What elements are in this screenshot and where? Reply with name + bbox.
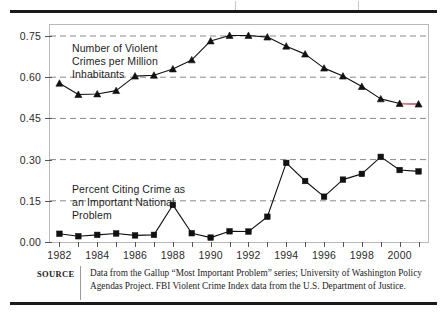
y-axis-label: 0.60 [20, 71, 41, 83]
data-point [378, 154, 384, 160]
x-axis-tick [230, 242, 231, 247]
x-axis-tick [154, 242, 155, 247]
data-point [302, 51, 309, 57]
data-point [94, 232, 100, 238]
data-point [113, 231, 119, 237]
y-axis-label: 0.00 [20, 236, 41, 248]
data-point [283, 160, 289, 166]
y-axis-tick [45, 242, 52, 243]
x-axis-tick [211, 242, 212, 247]
x-axis-tick [78, 242, 79, 247]
data-point [377, 95, 384, 101]
data-point [151, 232, 157, 238]
y-axis-label: 0.45 [20, 112, 41, 124]
y-axis-label: 0.15 [20, 195, 41, 207]
x-axis-tick [192, 242, 193, 247]
x-axis-tick [324, 242, 325, 247]
y-axis-tick [45, 201, 52, 202]
x-axis-tick [362, 242, 363, 247]
data-point [340, 177, 346, 183]
x-axis-tick [267, 242, 268, 247]
x-axis-tick [400, 242, 401, 247]
data-point [227, 228, 233, 234]
series-label-percent-citing-crime: Percent Citing Crime as an Important Nat… [72, 183, 185, 223]
data-point [265, 214, 271, 220]
y-axis-tick [45, 77, 52, 78]
data-point [57, 231, 63, 237]
data-point [339, 73, 346, 79]
x-axis-label: 1988 [161, 249, 185, 261]
series-label-violent-crimes: Number of Violent Crimes per Million Inh… [72, 42, 158, 82]
y-axis-label: 0.75 [20, 30, 41, 42]
data-point [321, 194, 327, 200]
data-point [132, 233, 138, 239]
x-axis-tick [116, 242, 117, 247]
x-axis-label: 1994 [274, 249, 298, 261]
data-point [321, 65, 328, 71]
x-axis-tick [173, 242, 174, 247]
data-point [283, 43, 290, 49]
x-axis-tick [381, 242, 382, 247]
data-point [189, 230, 195, 236]
top-rule [10, 10, 437, 13]
x-axis-tick [286, 242, 287, 247]
data-point [208, 235, 214, 241]
data-point [358, 83, 365, 89]
x-axis-tick [305, 242, 306, 247]
x-axis-label: 1992 [236, 249, 260, 261]
x-axis-tick [135, 242, 136, 247]
figure-panel: 0.000.150.300.450.600.751982198419861988… [0, 0, 447, 322]
source-divider [80, 266, 81, 300]
x-axis-tick [343, 242, 344, 247]
x-axis-label: 2000 [388, 249, 412, 261]
y-axis-label: 0.30 [20, 154, 41, 166]
data-point [397, 167, 403, 173]
x-axis-tick [97, 242, 98, 247]
x-axis-tick [419, 242, 420, 247]
y-axis-tick [45, 118, 52, 119]
x-axis-label: 1996 [312, 249, 336, 261]
x-axis-label: 1982 [47, 249, 71, 261]
data-point [76, 233, 82, 239]
source-text: Data from the Gallup “Most Important Pro… [90, 267, 430, 292]
data-point [169, 65, 176, 71]
y-axis-tick [45, 36, 52, 37]
data-point [416, 169, 422, 175]
data-point [246, 229, 252, 235]
x-axis-label: 1998 [350, 249, 374, 261]
data-point [56, 80, 63, 86]
data-point [359, 171, 365, 177]
x-axis-label: 1990 [199, 249, 223, 261]
y-axis-tick [45, 160, 52, 161]
source-label: SOURCE [37, 269, 75, 279]
x-axis-label: 1986 [123, 249, 147, 261]
top-rule-tick-right [358, 1, 359, 10]
x-axis-label: 1984 [85, 249, 109, 261]
x-axis-tick [59, 242, 60, 247]
top-rule-tick-left [235, 1, 236, 10]
series-line-highlight-0 [400, 104, 419, 105]
data-point [302, 178, 308, 184]
x-axis-tick [248, 242, 249, 247]
bottom-rule [10, 302, 437, 305]
